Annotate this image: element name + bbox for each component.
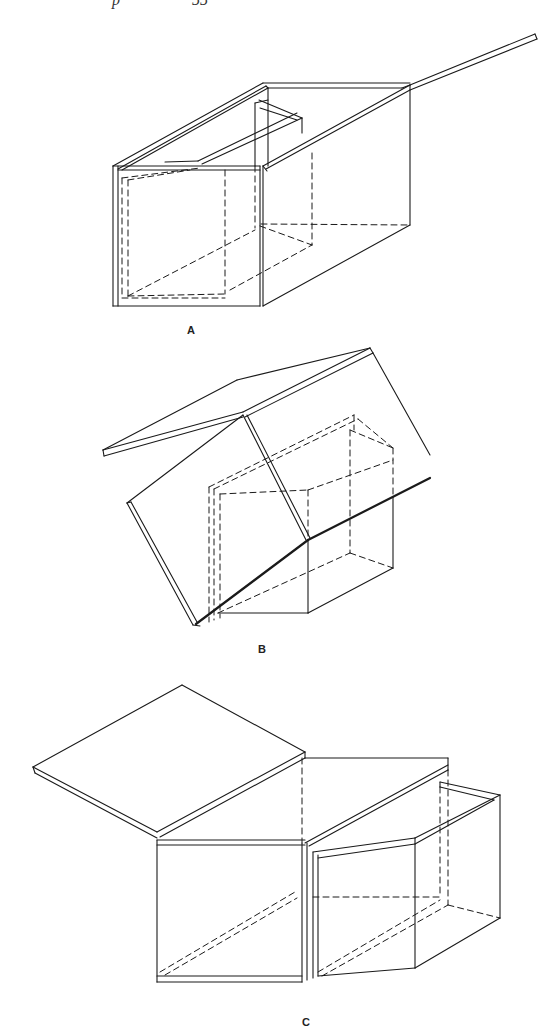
edge-line (193, 625, 200, 626)
edge-line (33, 685, 182, 767)
hidden-edge-line (448, 905, 500, 918)
figure-b (103, 348, 430, 626)
edge-line (410, 39, 537, 90)
hidden-edge-line (350, 553, 393, 568)
figure-c (33, 685, 500, 982)
figure-label-a: A (187, 324, 195, 336)
edge-line (263, 225, 410, 306)
hidden-edge-line (128, 294, 225, 296)
hidden-edge-line (218, 553, 350, 613)
edge-line (118, 86, 266, 169)
hidden-edge-line (260, 226, 312, 245)
edge-line (198, 113, 297, 161)
edge-line (535, 34, 537, 39)
edge-line (157, 752, 305, 832)
hidden-edge-line (209, 415, 354, 487)
edge-line (440, 782, 500, 795)
thick-edge-line (308, 478, 430, 540)
edge-line (243, 348, 370, 412)
edge-line (165, 161, 198, 162)
edge-line (127, 503, 193, 625)
edge-line (415, 795, 500, 838)
edge-line (103, 450, 104, 456)
edge-line (318, 844, 415, 858)
edge-line (103, 380, 237, 450)
edge-line (243, 415, 306, 540)
edge-line (415, 918, 500, 968)
edge-line (160, 758, 305, 837)
hidden-edge-line (128, 170, 190, 180)
thick-edge-line (196, 540, 308, 624)
figure-label-c: C (302, 1016, 310, 1028)
edge-line (313, 838, 415, 852)
edge-line (35, 773, 157, 838)
hidden-edge-line (322, 905, 448, 976)
edge-line (415, 800, 494, 844)
hidden-edge-line (128, 230, 255, 296)
box-diagrams (0, 0, 560, 1032)
edge-line (410, 34, 535, 85)
edge-line (309, 770, 448, 846)
edge-line (308, 568, 393, 613)
edge-line (370, 348, 373, 353)
edge-line (259, 100, 302, 118)
hidden-edge-line (165, 898, 297, 975)
edge-line (247, 415, 310, 538)
hidden-edge-line (230, 245, 312, 290)
hidden-edge-line (214, 419, 358, 489)
edge-line (122, 88, 268, 170)
hidden-edge-line (318, 900, 440, 972)
edge-line (373, 353, 430, 455)
edge-line (33, 767, 157, 832)
edge-line (131, 502, 197, 622)
figure-label-b: B (258, 643, 266, 655)
hidden-edge-line (220, 490, 308, 494)
hidden-edge-line (160, 892, 295, 972)
edge-line (318, 968, 415, 976)
figure-a (113, 34, 537, 306)
edge-line (305, 765, 448, 843)
hidden-edge-line (358, 419, 393, 448)
edge-line (104, 417, 243, 456)
edge-line (182, 685, 305, 752)
edge-line (113, 83, 263, 166)
hidden-edge-line (261, 224, 410, 225)
hidden-edge-line (350, 430, 393, 448)
edge-line (266, 90, 410, 169)
